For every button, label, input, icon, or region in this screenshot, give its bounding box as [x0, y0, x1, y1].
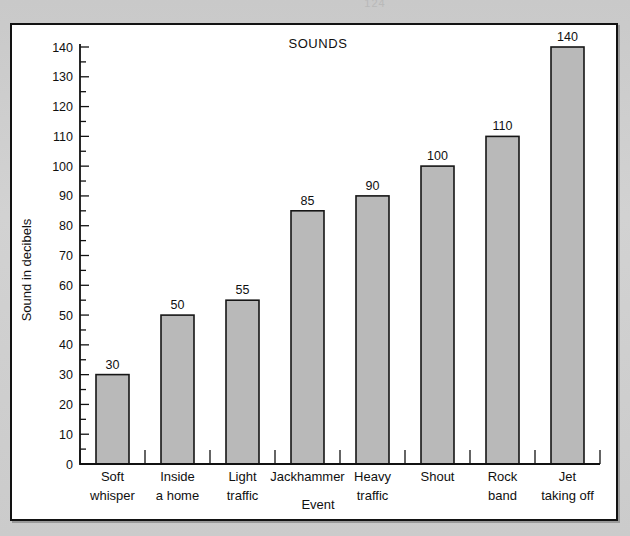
axis-lines [80, 44, 600, 464]
y-axis-ticks [80, 47, 89, 464]
bar-value-label: 110 [493, 119, 513, 133]
bar-value-label: 140 [557, 30, 578, 44]
y-tick-label: 20 [59, 398, 73, 412]
x-category-label: Jackhammer [270, 469, 345, 484]
x-axis-ticks [80, 450, 600, 464]
x-axis-title: Event [301, 497, 335, 512]
y-tick-label: 120 [52, 100, 73, 114]
x-category-label-line: traffic [227, 488, 259, 503]
y-axis-tick-labels: 0102030405060708090100110120130140 [52, 41, 73, 472]
x-category-label-line: whisper [89, 488, 135, 503]
x-category-label-line: Rock [488, 469, 518, 484]
y-tick-label: 80 [59, 219, 73, 233]
y-tick-label: 40 [59, 338, 73, 352]
bar-value-label: 55 [236, 283, 250, 297]
y-tick-label: 100 [52, 160, 73, 174]
x-category-label-line: Inside [160, 469, 195, 484]
bar-value-label: 30 [106, 358, 120, 372]
x-axis-category-labels: SoftwhisperInsidea homeLighttrafficJackh… [89, 469, 594, 503]
x-category-label-line: Light [228, 469, 257, 484]
x-category-label: Rockband [488, 469, 518, 503]
bar-value-label: 85 [301, 194, 315, 208]
y-tick-label: 110 [53, 130, 73, 144]
y-tick-label: 10 [59, 428, 73, 442]
chart-panel: SOUNDS Sound in decibels Event 010203040… [10, 23, 618, 521]
x-category-label-line: band [488, 488, 517, 503]
x-category-label: Jettaking off [541, 469, 594, 503]
x-category-label: Shout [421, 469, 455, 484]
bar [291, 211, 324, 464]
y-tick-label: 130 [52, 70, 73, 84]
x-category-label-line: traffic [357, 488, 389, 503]
y-tick-label: 60 [59, 279, 73, 293]
bar [226, 300, 259, 464]
bar [486, 136, 519, 464]
scanned-page: 124 SOUNDS Sound in decibels Event 01020… [0, 0, 630, 536]
x-category-label-line: Jackhammer [270, 469, 345, 484]
bar [356, 196, 389, 464]
y-tick-label: 90 [59, 189, 73, 203]
bars-group [96, 47, 584, 464]
page-number-artifact: 124 [352, 0, 398, 9]
x-category-label: Lighttraffic [227, 469, 259, 503]
x-category-label-line: a home [156, 488, 199, 503]
bar-value-label: 50 [171, 298, 185, 312]
chart-title: SOUNDS [288, 36, 347, 51]
x-category-label-line: taking off [541, 488, 594, 503]
y-tick-label: 0 [66, 458, 73, 472]
x-category-label: Heavytraffic [354, 469, 391, 503]
x-category-label-line: Jet [559, 469, 577, 484]
y-axis-title: Sound in decibels [19, 218, 34, 321]
x-category-label: Softwhisper [89, 469, 135, 503]
bar [96, 375, 129, 464]
y-tick-label: 50 [59, 309, 73, 323]
bar [421, 166, 454, 464]
bar [551, 47, 584, 464]
y-tick-label: 30 [59, 368, 73, 382]
x-category-label-line: Soft [101, 469, 125, 484]
bar [161, 315, 194, 464]
y-tick-label: 140 [52, 41, 73, 55]
x-category-label-line: Heavy [354, 469, 391, 484]
x-category-label: Insidea home [156, 469, 199, 503]
x-category-label-line: Shout [421, 469, 455, 484]
bar-value-label: 90 [366, 179, 380, 193]
bar-chart: SOUNDS Sound in decibels Event 010203040… [12, 25, 616, 519]
bar-value-label: 100 [427, 149, 448, 163]
y-tick-label: 70 [59, 249, 73, 263]
